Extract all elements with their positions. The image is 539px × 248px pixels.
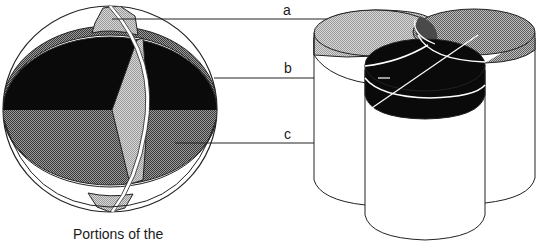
label-b: b bbox=[284, 60, 292, 76]
figure-caption: Portions of the bbox=[73, 226, 163, 242]
sphere-figure bbox=[0, 6, 220, 212]
cylinders-figure bbox=[314, 9, 535, 240]
label-c: c bbox=[284, 126, 291, 142]
label-a: a bbox=[283, 2, 291, 18]
diagram-canvas bbox=[0, 0, 539, 248]
